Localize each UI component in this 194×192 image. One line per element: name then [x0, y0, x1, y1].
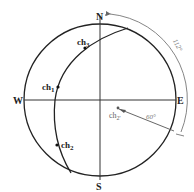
- label-plunge-angle: 60°: [146, 113, 156, 121]
- point-ch2: [55, 143, 58, 146]
- plunge-arrow-icon: [119, 109, 126, 113]
- label-west: W: [13, 95, 23, 106]
- label-east: E: [177, 95, 184, 106]
- label-ch2prime: ch2': [109, 111, 121, 121]
- label-strike-angle: 112°: [171, 38, 184, 53]
- stereonet-diagram: N S W E ch3 ch1 ch2 ch2' 112° 60°: [0, 0, 194, 192]
- label-north: N: [96, 11, 104, 22]
- strike-arc-tick: [176, 134, 184, 136]
- label-ch1: ch1: [42, 82, 55, 94]
- label-south: S: [96, 181, 102, 192]
- label-ch2: ch2: [61, 140, 74, 152]
- point-ch2prime: [117, 107, 120, 110]
- point-ch1: [56, 85, 59, 88]
- label-ch3: ch3: [77, 37, 90, 49]
